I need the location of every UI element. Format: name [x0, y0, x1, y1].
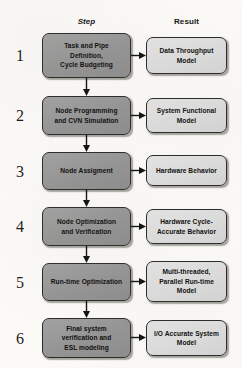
result-box-1: Data Throughput Model — [146, 37, 227, 74]
row-number-6: 6 — [6, 331, 34, 347]
step-box-3-line-1: Node Assigment — [60, 166, 112, 175]
row-number-5: 5 — [6, 275, 34, 291]
result-box-2-line-1: System Functional — [157, 106, 216, 115]
result-box-4-line-1: Hardware Cycle- — [157, 217, 216, 226]
result-box-1-line-1: Data Throughput — [160, 46, 214, 55]
row-number-3: 3 — [6, 164, 34, 180]
result-box-5-line-1: Multi-threaded, — [159, 267, 214, 276]
step-box-4: Node Optimization and Verification — [42, 207, 131, 246]
step-box-2: Node Programming and CVN Simulation — [42, 96, 131, 135]
result-box-3-line-1: Hardware Behavior — [156, 166, 217, 175]
result-box-5-line-2: Parallel Run-time — [159, 277, 214, 286]
column-header-result: Result — [146, 17, 227, 26]
step-box-4-line-1: Node Optimization — [57, 217, 116, 226]
step-box-1-line-2: Definition, — [60, 51, 113, 60]
arrow-step-1-to-result-1 — [131, 51, 146, 60]
row-number-2: 2 — [6, 108, 34, 124]
result-box-4-line-2: Accurate Behavior — [157, 227, 216, 236]
step-box-4-line-2: and Verification — [57, 227, 116, 236]
result-box-4: Hardware Cycle- Accurate Behavior — [146, 209, 227, 244]
arrow-step-2-to-step-3 — [81, 135, 92, 152]
arrow-step-5-to-step-6 — [81, 301, 92, 318]
step-box-3: Node Assigment — [42, 152, 131, 190]
step-box-6-line-3: ESL modeling — [62, 343, 112, 352]
result-box-1-line-2: Model — [160, 56, 214, 65]
result-box-2: System Functional Model — [146, 98, 227, 133]
result-box-6-line-2: Model — [154, 338, 219, 347]
step-box-1-line-1: Task and Pipe — [60, 41, 113, 50]
step-box-2-line-1: Node Programming — [55, 106, 119, 115]
flowchart-diagram: Step Result 1 Task and Pipe Definition, … — [0, 0, 242, 368]
result-box-6: I/O Accurate System Model — [146, 320, 227, 356]
step-box-6-line-2: verification and — [62, 333, 112, 342]
row-number-1: 1 — [6, 48, 34, 64]
step-box-5: Run-time Optimization — [42, 263, 131, 301]
result-box-3: Hardware Behavior — [146, 155, 227, 186]
step-box-1-line-3: Cycle Budgeting — [60, 60, 113, 69]
step-box-6: Final system verification and ESL modeli… — [42, 318, 131, 358]
step-box-2-line-2: and CVN Simulation — [55, 116, 119, 125]
arrow-step-4-to-step-5 — [81, 246, 92, 263]
arrow-step-4-to-result-4 — [131, 222, 146, 231]
row-number-4: 4 — [6, 219, 34, 235]
column-header-step: Step — [42, 17, 131, 26]
arrow-step-5-to-result-5 — [131, 277, 146, 286]
arrow-step-1-to-step-2 — [81, 78, 92, 96]
step-box-1: Task and Pipe Definition, Cycle Budgetin… — [42, 33, 131, 78]
result-box-6-line-1: I/O Accurate System — [154, 329, 219, 338]
arrow-step-3-to-step-4 — [81, 190, 92, 207]
arrow-step-6-to-result-6 — [131, 333, 146, 342]
result-box-5: Multi-threaded, Parallel Run-time Model — [146, 261, 227, 302]
arrow-step-3-to-result-3 — [131, 166, 146, 175]
result-box-2-line-2: Model — [157, 116, 216, 125]
arrow-step-2-to-result-2 — [131, 111, 146, 120]
result-box-5-line-3: Model — [159, 286, 214, 295]
step-box-6-line-1: Final system — [62, 324, 112, 333]
step-box-5-line-1: Run-time Optimization — [51, 277, 122, 286]
